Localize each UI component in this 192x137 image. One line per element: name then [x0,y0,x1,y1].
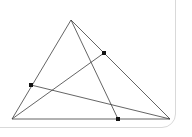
side-AB [12,20,71,119]
point-E-marker [102,51,106,55]
point-F-marker [29,83,33,87]
side-CA [71,20,170,119]
cevian-C-to-F [31,85,170,119]
point-D-marker [116,117,120,121]
geometry-figure [0,0,192,137]
cevian-B-to-E [12,53,104,119]
figure-viewport [0,0,192,137]
